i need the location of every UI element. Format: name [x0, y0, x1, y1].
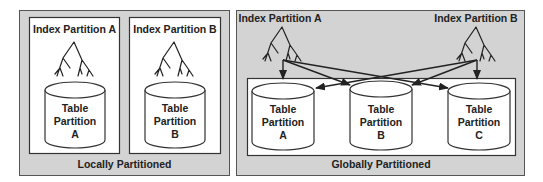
global-caption: Globally Partitioned — [331, 158, 430, 170]
local-index-a-label: Index Partition A — [33, 23, 116, 35]
partitioning-diagram: Index Partition A Table Partition A Inde… — [0, 0, 543, 182]
global-table-c-line3: C — [475, 129, 483, 141]
global-table-a-line2: Partition — [262, 116, 305, 128]
local-table-a-line2: Partition — [54, 115, 97, 127]
local-partition-a: Index Partition A Table Partition A — [30, 18, 120, 154]
global-table-c-line1: Table — [466, 103, 493, 115]
local-table-a-line3: A — [71, 128, 79, 140]
local-table-b-line3: B — [171, 128, 179, 140]
global-table-b-line1: Table — [368, 103, 395, 115]
global-table-b-line3: B — [377, 129, 385, 141]
local-table-a-cylinder: Table Partition A — [45, 82, 105, 148]
global-table-c-cylinder: Table Partition C — [448, 83, 510, 150]
local-table-a-line1: Table — [62, 102, 89, 114]
global-table-a-line1: Table — [270, 103, 297, 115]
global-index-b-label: Index Partition B — [434, 12, 518, 24]
global-table-a-line3: A — [279, 129, 287, 141]
local-caption: Locally Partitioned — [78, 158, 172, 170]
local-table-b-cylinder: Table Partition B — [145, 82, 205, 148]
local-index-b-label: Index Partition B — [133, 23, 217, 35]
local-partition-b: Index Partition B Table Partition B — [130, 18, 221, 154]
global-table-b-line2: Partition — [360, 116, 403, 128]
global-table-b-cylinder: Table Partition B — [350, 81, 412, 150]
global-panel: Index Partition A Index Partition B Tabl… — [237, 11, 525, 176]
global-table-c-line2: Partition — [458, 116, 501, 128]
global-index-a-label: Index Partition A — [238, 12, 321, 24]
local-table-b-line1: Table — [162, 102, 189, 114]
global-table-a-cylinder: Table Partition A — [252, 83, 314, 150]
local-panel: Index Partition A Table Partition A Inde… — [20, 11, 230, 176]
local-table-b-line2: Partition — [154, 115, 197, 127]
